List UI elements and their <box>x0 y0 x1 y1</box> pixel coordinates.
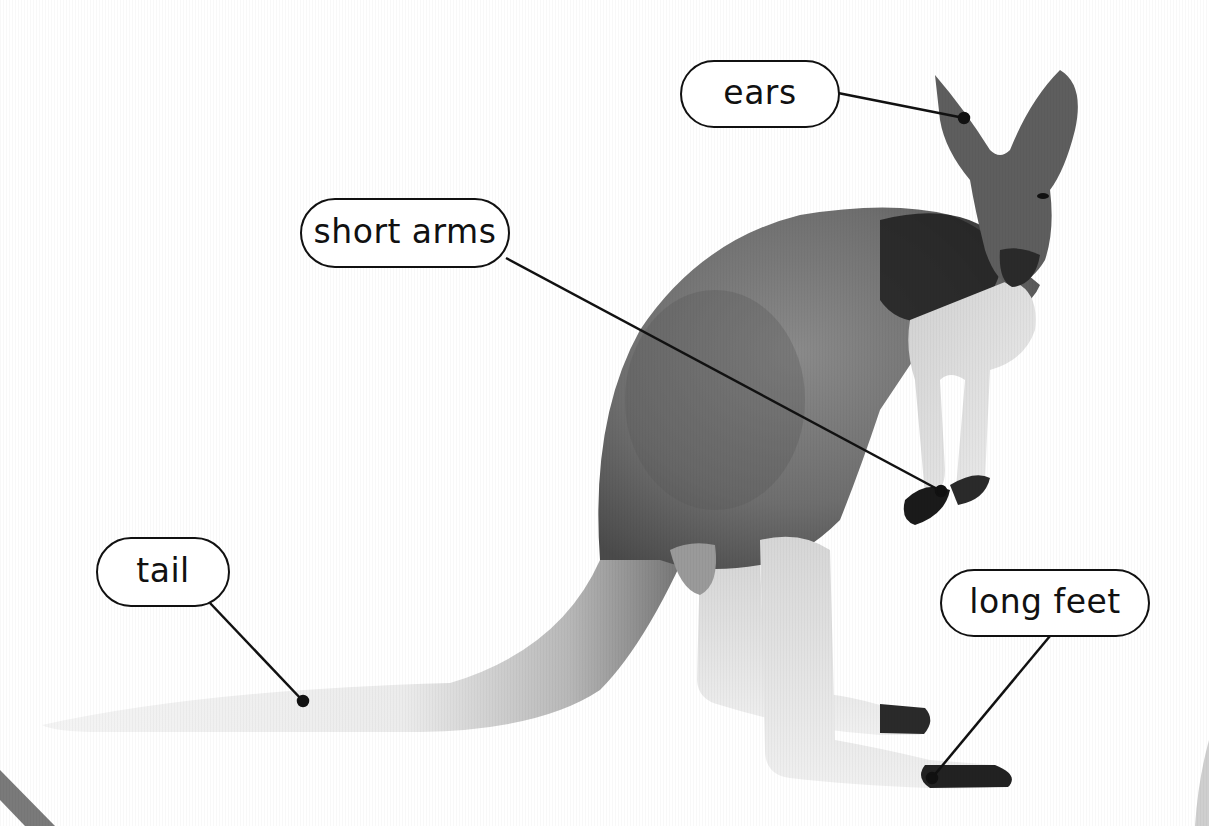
anchor-dot-short-arms <box>936 486 946 496</box>
anchor-dot-tail <box>298 696 308 706</box>
label-long-feet: long feet <box>940 569 1150 637</box>
corner-swoosh-right <box>1195 740 1209 826</box>
label-short-arms: short arms <box>300 198 510 268</box>
label-ears-text: ears <box>723 76 796 113</box>
label-long-feet-text: long feet <box>969 585 1120 622</box>
label-tail-text: tail <box>136 554 190 591</box>
leader-line-long-feet <box>932 636 1050 778</box>
label-short-arms-text: short arms <box>314 215 497 252</box>
anchor-dot-ears <box>959 113 969 123</box>
anchor-dot-long-feet <box>927 773 937 783</box>
corner-swoosh-left <box>0 770 55 826</box>
kangaroo-diagram: ears short arms tail long feet <box>0 0 1209 826</box>
label-tail: tail <box>96 537 230 607</box>
kangaroo-illustration <box>0 0 1209 826</box>
leader-line-tail <box>210 603 303 701</box>
label-ears: ears <box>680 60 840 128</box>
kangaroo-chest-arms <box>904 280 1036 525</box>
